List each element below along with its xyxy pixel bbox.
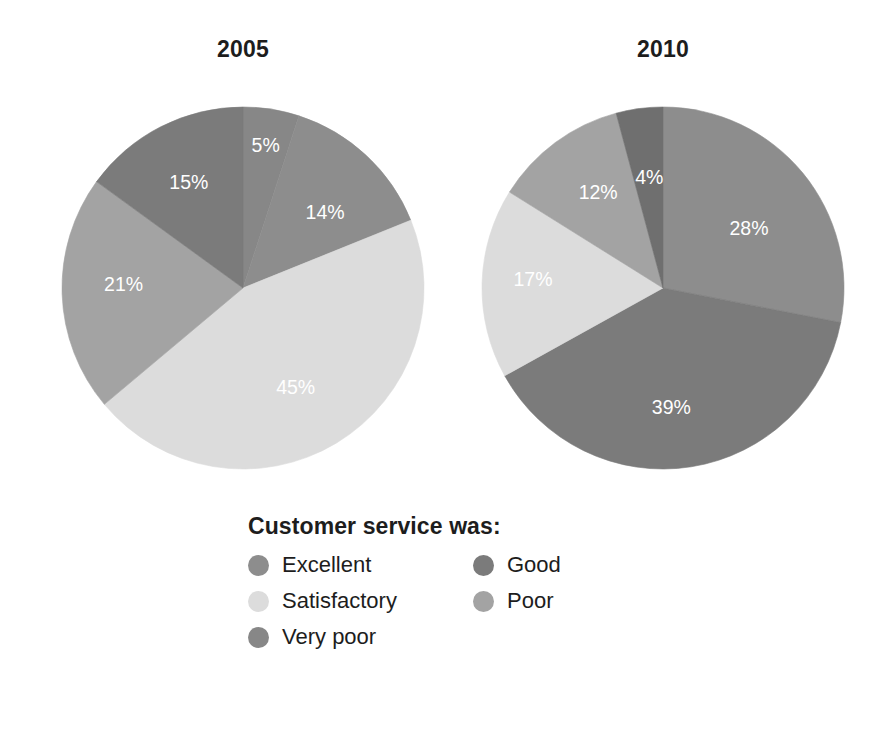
pie-slice-label: 21% (104, 273, 143, 295)
legend-items: Excellent Satisfactory Very poor Good Po… (219, 554, 649, 674)
legend-label-very-poor: Very poor (282, 626, 376, 648)
legend-label-satisfactory: Satisfactory (282, 590, 397, 612)
pie-chart-2005: 5%14%45%21%15% (61, 106, 425, 470)
pie-slice-label: 17% (513, 268, 552, 290)
pie-slice-label: 39% (652, 396, 691, 418)
legend-label-poor: Poor (507, 590, 553, 612)
legend-item-poor[interactable]: Poor (473, 590, 553, 612)
pie-slice[interactable] (663, 107, 844, 323)
pie-slice-label: 12% (579, 181, 618, 203)
pie-slice-label: 5% (252, 134, 280, 156)
pie-chart-2010: 28%39%17%12%4% (481, 106, 845, 470)
legend-item-good[interactable]: Good (473, 554, 561, 576)
chart-legend: Customer service was: Excellent Satisfac… (219, 513, 649, 674)
pie-slice-label: 45% (276, 376, 315, 398)
pie-slice-label: 14% (306, 201, 345, 223)
chart-title-2005: 2005 (163, 36, 323, 63)
legend-item-excellent[interactable]: Excellent (248, 554, 371, 576)
pie-chart-2010-svg: 28%39%17%12%4% (481, 106, 845, 470)
legend-label-excellent: Excellent (282, 554, 371, 576)
chart-title-2010: 2010 (583, 36, 743, 63)
chart-canvas: 2005 5%14%45%21%15% 2010 28%39%17%12%4% … (0, 0, 871, 733)
pie-slice-label: 28% (729, 217, 768, 239)
legend-swatch-satisfactory-icon (248, 591, 269, 612)
pie-slice-label: 4% (635, 166, 663, 188)
legend-item-very-poor[interactable]: Very poor (248, 626, 376, 648)
legend-swatch-excellent-icon (248, 555, 269, 576)
legend-swatch-very-poor-icon (248, 627, 269, 648)
legend-swatch-poor-icon (473, 591, 494, 612)
pie-slice-label: 15% (169, 171, 208, 193)
legend-title: Customer service was: (248, 513, 649, 540)
legend-swatch-good-icon (473, 555, 494, 576)
pie-chart-2005-svg: 5%14%45%21%15% (61, 106, 425, 470)
legend-label-good: Good (507, 554, 561, 576)
legend-item-satisfactory[interactable]: Satisfactory (248, 590, 397, 612)
